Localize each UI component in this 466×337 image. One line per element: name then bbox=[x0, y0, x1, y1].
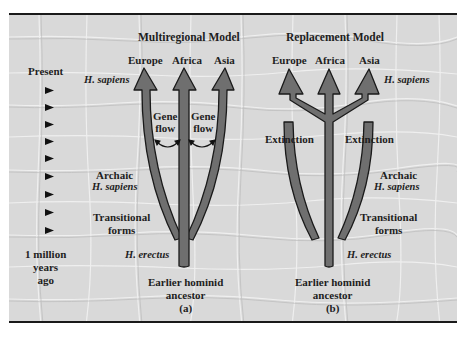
panel-a-h-sapiens-label: H. sapiens bbox=[84, 74, 130, 86]
tick-pointer-icon bbox=[45, 155, 54, 162]
tick-pointer-icon bbox=[45, 104, 54, 111]
panel-a-ancestor-label: Earlier hominid ancestor (a) bbox=[148, 276, 223, 315]
panel-a-region-europe: Europe bbox=[128, 54, 163, 66]
panel-a-region-africa: Africa bbox=[172, 54, 202, 66]
gene-flow-text: flow bbox=[153, 122, 177, 134]
timeline-past-line: ago bbox=[25, 274, 66, 287]
panel-a-caption: (a) bbox=[148, 302, 223, 315]
replacement-arrows bbox=[279, 69, 379, 267]
panel-a-title: Multiregional Model bbox=[138, 31, 240, 43]
panel-a-h-erectus-label: H. erectus bbox=[125, 249, 169, 261]
panel-a-gene-flow-left: Gene flow bbox=[153, 110, 177, 134]
tick-pointer-icon bbox=[45, 209, 54, 216]
transitional-text: Transitional bbox=[93, 211, 150, 224]
panel-b-region-europe: Europe bbox=[272, 54, 307, 66]
panel-b-ancestor-label: Earlier hominid ancestor (b) bbox=[295, 276, 370, 315]
transitional-text: forms bbox=[93, 224, 150, 237]
panel-b-region-asia: Asia bbox=[359, 54, 380, 66]
transitional-text: Transitional bbox=[360, 211, 417, 224]
panel-b-h-erectus-label: H. erectus bbox=[347, 249, 391, 261]
gene-flow-text: flow bbox=[191, 122, 215, 134]
transitional-text: forms bbox=[360, 224, 417, 237]
tick-pointer-icon bbox=[45, 191, 54, 198]
ancestor-text: ancestor bbox=[295, 289, 370, 302]
tick-pointer-icon bbox=[45, 138, 54, 145]
tick-pointer-icon bbox=[45, 87, 54, 94]
timeline-ticks bbox=[45, 87, 54, 234]
panel-a-gene-flow-right: Gene flow bbox=[191, 110, 215, 134]
panel-b-transitional-label: Transitional forms bbox=[360, 211, 417, 237]
timeline-present-label: Present bbox=[28, 65, 63, 77]
panel-a-archaic-species-label: H. sapiens bbox=[92, 181, 138, 193]
gene-flow-text: Gene bbox=[191, 110, 215, 122]
panel-b-extinction-left: Extinction bbox=[265, 133, 314, 145]
panel-b-extinction-right: Extinction bbox=[345, 133, 394, 145]
tick-pointer-icon bbox=[45, 173, 54, 180]
tick-pointer-icon bbox=[45, 227, 54, 234]
panel-b-archaic-label: Archaic bbox=[380, 169, 417, 181]
panel-b-title: Replacement Model bbox=[286, 31, 384, 43]
timeline-past-line: 1 million bbox=[25, 248, 66, 261]
timeline-past-label: 1 million years ago bbox=[25, 248, 66, 287]
panel-a-transitional-label: Transitional forms bbox=[93, 211, 150, 237]
timeline-past-line: years bbox=[25, 261, 66, 274]
panel-b-archaic-species-label: H. sapiens bbox=[374, 181, 420, 193]
ancestor-text: ancestor bbox=[148, 289, 223, 302]
gene-flow-text: Gene bbox=[153, 110, 177, 122]
panel-b-caption: (b) bbox=[295, 302, 370, 315]
ancestor-text: Earlier hominid bbox=[148, 276, 223, 289]
panel-a-archaic-label: Archaic bbox=[96, 169, 133, 181]
tick-pointer-icon bbox=[45, 121, 54, 128]
asia-lineage-arrow bbox=[186, 68, 234, 240]
panel-b-h-sapiens-label: H. sapiens bbox=[384, 74, 430, 86]
panel-a-region-asia: Asia bbox=[214, 54, 235, 66]
panel-b-region-africa: Africa bbox=[315, 54, 345, 66]
multiregional-arrows bbox=[134, 68, 234, 267]
ancestor-text: Earlier hominid bbox=[295, 276, 370, 289]
